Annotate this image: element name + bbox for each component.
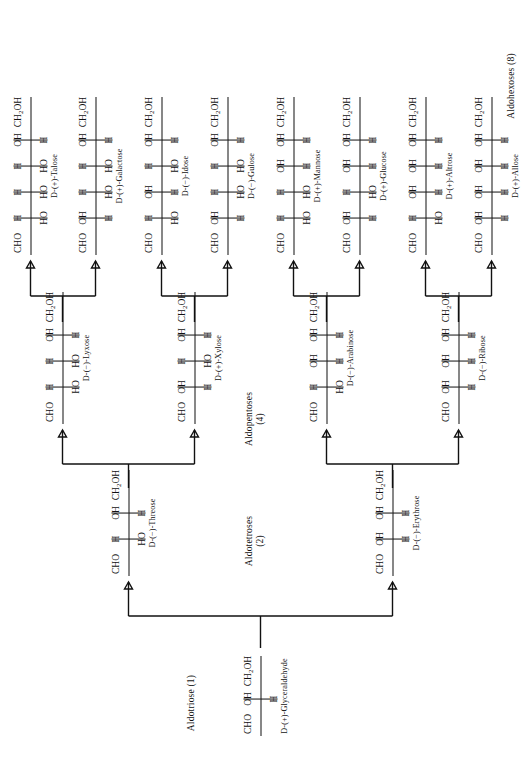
substituent-left: H <box>103 137 113 144</box>
sugar-node-glyceraldehyde: CHOOHHCH2OHD-(+)-Glyceraldehyde <box>243 656 290 736</box>
substituent-left: H <box>466 332 476 339</box>
substituent-right: OH <box>12 133 22 147</box>
cho-label: CHO <box>176 402 186 422</box>
stereocenter-1: OHH <box>210 205 244 231</box>
substituent-right: OH <box>440 380 450 394</box>
substituent-right: OH <box>341 159 351 173</box>
ch2oh-label: CH2OH <box>176 292 187 322</box>
substituent-right: H <box>275 189 285 196</box>
sugar-node-galactose: CHOOHHHHOHHOOHHCH2OHD-(+)-Galactose <box>78 97 125 255</box>
substituent-left: H <box>400 536 410 543</box>
substituent-right: H <box>12 189 22 196</box>
group-ch2oh: CH2OH <box>309 292 343 322</box>
substituent-left: H <box>433 137 443 144</box>
substituent-right: H <box>12 215 22 222</box>
sugar-name-idose: D-(−)-Idose <box>180 97 189 255</box>
group-cho: CHO <box>78 231 112 255</box>
cho-label: CHO <box>275 233 285 253</box>
fischer-body: CHOOHHHHOOHHOHHCH2OH <box>342 97 376 255</box>
substituent-left: H <box>235 137 245 144</box>
cho-label: CHO <box>308 402 318 422</box>
aldose-family-tree-figure: Aldotriose (1) Aldotetroses (2) Aldopent… <box>0 0 521 766</box>
ch2oh-label: CH2OH <box>308 292 319 322</box>
substituent-right: H <box>110 536 120 543</box>
group-cho: CHO <box>441 400 475 424</box>
group-ch2oh: CH2OH <box>45 292 79 322</box>
substituent-right: OH <box>308 354 318 368</box>
group-ch2oh: CH2OH <box>78 97 112 127</box>
substituent-left: H <box>169 137 179 144</box>
fischer-body: CHOHHOOHHHHOOHHCH2OH <box>144 97 178 255</box>
substituent-left: H <box>499 163 509 170</box>
substituent-right: H <box>176 358 186 365</box>
sugar-node-mannose: CHOHHOHHOOHHOHHCH2OHD-(+)-Mannose <box>276 97 323 255</box>
group-cho: CHO <box>474 231 508 255</box>
substituent-right: H <box>407 215 417 222</box>
cho-label: CHO <box>374 554 384 574</box>
substituent-right: OH <box>374 532 384 546</box>
stereocenter-4: OHH <box>408 127 442 153</box>
substituent-right: OH <box>275 159 285 173</box>
substituent-left: H <box>103 215 113 222</box>
substituent-right: OH <box>209 133 219 147</box>
group-ch2oh: CH2OH <box>342 97 376 127</box>
substituent-left: HO <box>301 185 311 199</box>
stereocenter-2: HHO <box>210 179 244 205</box>
substituent-right: OH <box>473 185 483 199</box>
substituent-right: H <box>44 384 54 391</box>
sugar-name-talose: D-(+)-Talose <box>49 97 58 255</box>
stereocenter-3: HHO <box>144 153 178 179</box>
substituent-right: OH <box>242 692 252 706</box>
group-cho: CHO <box>45 400 79 424</box>
substituent-right: OH <box>110 506 120 520</box>
caption-aldopentoses: Aldopentoses (4) <box>243 369 265 469</box>
substituent-left: H <box>466 384 476 391</box>
fischer-projection-xylose: CHOOHHHHOOHHCH2OHD-(+)-Xylose <box>177 292 222 424</box>
ch2oh-label: CH2OH <box>473 97 484 127</box>
stereocenter-1: OHH <box>243 686 277 712</box>
fischer-projection-idose: CHOHHOOHHHHOOHHCH2OHD-(−)-Idose <box>144 97 189 255</box>
substituent-right: OH <box>308 328 318 342</box>
ch2oh-label: CH2OH <box>242 656 253 686</box>
diagram-canvas: Aldotriose (1) Aldotetroses (2) Aldopent… <box>0 0 521 766</box>
stereocenter-4: OHH <box>144 127 178 153</box>
substituent-left: H <box>400 510 410 517</box>
stereocenter-2: HHO <box>45 348 79 374</box>
substituent-right: OH <box>209 211 219 225</box>
stereocenter-1: OHH <box>342 205 376 231</box>
substituent-left: H <box>433 189 443 196</box>
substituent-left: HO <box>136 532 146 546</box>
sugar-name-ribose: D-(−)-Ribose <box>477 292 486 424</box>
stereocenter-3: OHH <box>177 322 211 348</box>
substituent-left: H <box>466 358 476 365</box>
ch2oh-label: CH2OH <box>44 292 55 322</box>
sugar-node-allose: CHOOHHOHHOHHOHHCH2OHD-(+)-Allose <box>474 97 521 255</box>
stereocenter-1: HHO <box>144 205 178 231</box>
group-cho: CHO <box>309 400 343 424</box>
stereocenter-4: OHH <box>474 127 508 153</box>
cho-label: CHO <box>209 233 219 253</box>
sugar-name-glyceraldehyde: D-(+)-Glyceraldehyde <box>279 656 288 736</box>
substituent-right: OH <box>77 211 87 225</box>
cho-label: CHO <box>44 402 54 422</box>
group-ch2oh: CH2OH <box>408 97 442 127</box>
stereocenter-4: OHH <box>78 127 112 153</box>
group-cho: CHO <box>276 231 310 255</box>
substituent-right: OH <box>407 185 417 199</box>
stereocenter-3: OHH <box>276 153 310 179</box>
substituent-right: H <box>209 163 219 170</box>
stereocenter-1: OHH <box>474 205 508 231</box>
stereocenter-1: OHH <box>441 374 475 400</box>
fischer-projection-gulose: CHOOHHHHOHHOOHHCH2OHD-(−)-Gulose <box>210 97 255 255</box>
substituent-left: HO <box>334 380 344 394</box>
fischer-body: CHOHHOOHHOHHOHHCH2OH <box>408 97 442 255</box>
substituent-left: H <box>301 163 311 170</box>
ch2oh-label: CH2OH <box>110 470 121 500</box>
stereocenter-2: OHH <box>408 179 442 205</box>
ch2oh-label: CH2OH <box>143 97 154 127</box>
fischer-body: CHOOHHHHOHHOOHHCH2OH <box>210 97 244 255</box>
stereocenter-2: OHH <box>111 500 145 526</box>
stereocenter-4: OHH <box>342 127 376 153</box>
sugar-node-gulose: CHOOHHHHOHHOOHHCH2OHD-(−)-Gulose <box>210 97 257 255</box>
substituent-left: H <box>202 332 212 339</box>
